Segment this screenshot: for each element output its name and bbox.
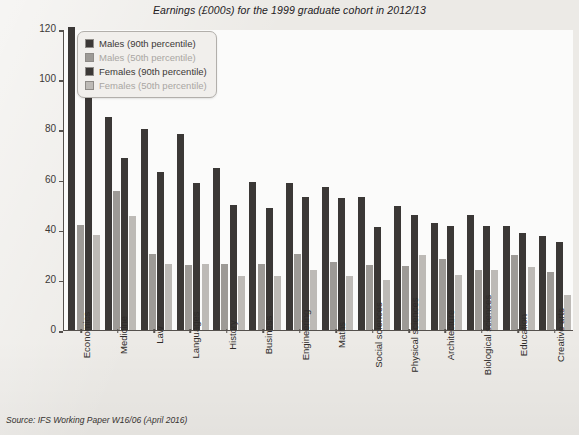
- y-axis-tick: 80: [0, 130, 63, 131]
- bar: [113, 191, 120, 330]
- bar: [338, 198, 345, 330]
- chart-title: Earnings (£000s) for the 1999 graduate c…: [0, 4, 579, 16]
- bar: [193, 183, 200, 330]
- bar: [177, 134, 184, 330]
- bar: [238, 276, 245, 330]
- bar-group: [464, 30, 500, 330]
- x-axis-tick-label: Economics: [81, 312, 92, 358]
- y-axis-tick-label: 60: [45, 174, 56, 185]
- x-axis-labels: EconomicsMedicineLawLanguagesHistoryBusi…: [63, 333, 573, 409]
- bar: [394, 206, 401, 330]
- bar-group: [283, 30, 319, 330]
- bar: [467, 215, 474, 330]
- x-axis-label-cell: Creative arts: [536, 333, 572, 409]
- x-axis-tick-label: Social sciences: [373, 302, 384, 367]
- legend-item: Females (90th percentile): [85, 64, 207, 78]
- y-axis-tick-label: 40: [45, 224, 56, 235]
- bar: [105, 117, 112, 330]
- y-axis-tick-label: 80: [45, 123, 56, 134]
- legend-item: Males (90th percentile): [85, 36, 207, 50]
- bar: [539, 236, 546, 330]
- bar: [431, 223, 438, 330]
- bar: [455, 275, 462, 330]
- legend-swatch-icon: [85, 67, 94, 76]
- y-axis-tick-mark: [59, 281, 63, 283]
- bar-group: [428, 30, 464, 330]
- x-axis-tick-label: Law: [154, 326, 165, 343]
- bar: [157, 172, 164, 330]
- x-axis-tick-label: History: [227, 320, 238, 350]
- x-axis-label-cell: Economics: [63, 333, 99, 409]
- chart-page: Earnings (£000s) for the 1999 graduate c…: [0, 0, 579, 435]
- x-axis-label-cell: Languages: [172, 333, 208, 409]
- x-axis-tick-label: Architecture: [445, 310, 456, 361]
- legend-swatch-icon: [85, 81, 94, 90]
- x-axis-label-cell: Physical sciences: [391, 333, 427, 409]
- y-axis-tick-label: 120: [39, 23, 56, 34]
- legend-swatch-icon: [85, 53, 94, 62]
- bar: [213, 168, 220, 330]
- x-axis-tick-label: Medicine: [118, 316, 129, 354]
- legend-item-label: Males (90th percentile): [99, 38, 196, 49]
- y-axis-tick: 0: [0, 331, 63, 332]
- x-axis-label-cell: Social sciences: [354, 333, 390, 409]
- legend-item-label: Females (50th percentile): [99, 80, 207, 91]
- y-axis-tick-mark: [59, 30, 63, 32]
- bar: [286, 183, 293, 330]
- source-note: Source: IFS Working Paper W16/06 (April …: [6, 415, 187, 425]
- y-axis-tick-label: 0: [50, 324, 56, 335]
- x-axis-label-cell: Law: [136, 333, 172, 409]
- legend-item-label: Females (90th percentile): [99, 66, 207, 77]
- x-axis-label-cell: Architecture: [427, 333, 463, 409]
- y-axis-tick-mark: [59, 231, 63, 233]
- bar: [129, 216, 136, 330]
- bar: [475, 270, 482, 330]
- y-axis-tick-label: 20: [45, 274, 56, 285]
- x-axis-label-cell: Maths: [318, 333, 354, 409]
- bar: [149, 254, 156, 331]
- y-axis-tick-mark: [59, 80, 63, 82]
- y-axis-tick-mark: [59, 130, 63, 132]
- bar: [121, 158, 128, 330]
- bar-group: [356, 30, 392, 330]
- bar: [230, 205, 237, 330]
- x-axis-tick-label: Physical sciences: [409, 298, 420, 373]
- x-axis-label-cell: Biological sciences: [464, 333, 500, 409]
- x-axis-tick-label: Engineering: [300, 310, 311, 361]
- bar-group: [320, 30, 356, 330]
- y-axis-tick: 100: [0, 80, 63, 81]
- bar-group: [537, 30, 573, 330]
- x-axis-label-cell: Education: [500, 333, 536, 409]
- x-axis-label-cell: Engineering: [282, 333, 318, 409]
- bar: [547, 272, 554, 330]
- legend-swatch-icon: [85, 39, 94, 48]
- bar: [68, 27, 75, 331]
- legend-item: Females (50th percentile): [85, 78, 207, 92]
- bar: [346, 276, 353, 330]
- bar: [274, 276, 281, 330]
- x-axis-tick-label: Languages: [190, 311, 201, 358]
- bar-group: [247, 30, 283, 330]
- bar: [202, 264, 209, 331]
- bar: [85, 94, 92, 330]
- bar: [503, 226, 510, 330]
- y-axis-tick: 20: [0, 281, 63, 282]
- bar: [141, 129, 148, 330]
- bar: [93, 235, 100, 330]
- chart-legend: Males (90th percentile)Males (50th perce…: [77, 31, 217, 98]
- y-axis-tick-label: 100: [39, 73, 56, 84]
- bar: [330, 262, 337, 330]
- bar: [322, 187, 329, 330]
- y-axis-tick-mark: [59, 181, 63, 183]
- bar-group: [501, 30, 537, 330]
- x-axis-tick-label: Business: [263, 316, 274, 355]
- x-axis-tick-label: Biological sciences: [482, 295, 493, 375]
- legend-item: Males (50th percentile): [85, 50, 207, 64]
- y-axis-tick: 60: [0, 181, 63, 182]
- bar-group: [392, 30, 428, 330]
- bar: [249, 182, 256, 330]
- x-axis-tick-label: Maths: [336, 322, 347, 348]
- y-axis-tick: 120: [0, 30, 63, 31]
- bar: [358, 197, 365, 330]
- bar: [310, 270, 317, 330]
